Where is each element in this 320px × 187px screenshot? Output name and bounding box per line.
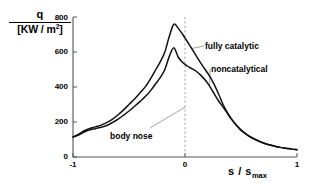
leader-line-fully-catalytic	[192, 46, 204, 49]
curve-fully-catalytic	[73, 24, 297, 150]
heat-flux-chart: q [KW / m2] 800 600 400 200 0 -1 0 1 s /…	[0, 0, 320, 187]
plot-canvas	[0, 0, 320, 187]
leader-line-body-nose	[150, 107, 185, 128]
